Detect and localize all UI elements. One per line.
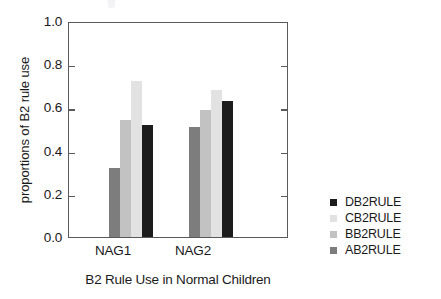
bar-ab2rule-nag1: [109, 168, 120, 237]
legend-label: DB2RULE: [345, 194, 401, 210]
y-tick-label: 0.8: [30, 59, 62, 71]
plot-area: [68, 22, 288, 238]
y-tick-mark: [69, 66, 75, 67]
y-tick-mark: [69, 196, 75, 197]
legend-item-cb2rule: CB2RULE: [330, 210, 401, 226]
bar-cb2rule-nag1: [131, 81, 142, 237]
bar-group-nag2: [189, 23, 235, 237]
y-tick-mark: [281, 109, 287, 110]
legend-swatch-icon: [330, 215, 337, 222]
legend-label: AB2RULE: [345, 242, 401, 258]
y-tick-mark: [69, 109, 75, 110]
legend-item-db2rule: DB2RULE: [330, 194, 401, 210]
chart-legend: DB2RULE CB2RULE BB2RULE AB2RULE: [330, 194, 401, 258]
legend-label: BB2RULE: [345, 226, 401, 242]
y-tick-label: 1.0: [30, 16, 62, 28]
bar-bb2rule-nag2: [200, 110, 211, 237]
x-axis-title: B2 Rule Use in Normal Children: [38, 272, 318, 287]
y-tick-mark: [69, 153, 75, 154]
bar-bb2rule-nag1: [120, 120, 131, 237]
y-tick-mark: [281, 153, 287, 154]
bar-db2rule-nag1: [142, 125, 153, 237]
y-tick-mark: [281, 66, 287, 67]
legend-swatch-icon: [330, 231, 337, 238]
bar-group-nag1: [109, 23, 155, 237]
bar-ab2rule-nag2: [189, 127, 200, 237]
y-axis-tick-labels: 1.0 0.8 0.6 0.4 0.2 0.0: [24, 0, 62, 299]
legend-swatch-icon: [330, 247, 337, 254]
x-group-label-nag1: NAG1: [78, 243, 148, 258]
legend-item-ab2rule: AB2RULE: [330, 242, 401, 258]
y-tick-mark: [281, 196, 287, 197]
y-tick-label: 0.6: [30, 102, 62, 114]
y-tick-label: 0.4: [30, 146, 62, 158]
legend-label: CB2RULE: [345, 210, 401, 226]
legend-item-bb2rule: BB2RULE: [330, 226, 401, 242]
bar-db2rule-nag2: [222, 101, 233, 237]
y-tick-label: 0.2: [30, 189, 62, 201]
bar-cb2rule-nag2: [211, 90, 222, 237]
legend-swatch-icon: [330, 199, 337, 206]
y-tick-label: 0.0: [30, 232, 62, 244]
scan-artifact: [108, 0, 115, 8]
bar-chart-figure: proportions of B2 rule use 1.0 0.8 0.6 0…: [0, 0, 441, 299]
x-group-label-nag2: NAG2: [158, 243, 228, 258]
